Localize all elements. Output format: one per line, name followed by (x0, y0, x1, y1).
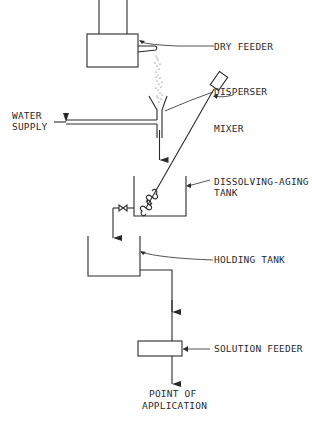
label-point-of-application-2: APPLICATION (142, 400, 207, 411)
water-supply-pipe (54, 120, 157, 124)
label-water-supply-2: SUPPLY (12, 121, 48, 132)
process-diagram (0, 0, 312, 421)
label-mixer: MIXER (214, 123, 244, 134)
label-holding-tank: HOLDING TANK (214, 254, 285, 265)
label-water-supply-1: WATER (12, 110, 42, 121)
label-dissolving-tank-1: DISSOLVING-AGING (214, 176, 309, 187)
label-solution-feeder: SOLUTION FEEDER (214, 343, 303, 354)
label-dry-feeder: DRY FEEDER (214, 41, 273, 52)
tank-outlet-valve (113, 205, 134, 238)
label-point-of-application-1: POINT OF (149, 388, 196, 399)
solution-feeder-box (138, 341, 182, 356)
label-dissolving-tank-2: TANK (214, 187, 238, 198)
label-disperser: DISPERSER (214, 86, 267, 97)
dry-feeder-unit (87, 0, 157, 67)
dissolving-aging-tank (134, 176, 186, 216)
disperser-funnel (149, 96, 167, 138)
holding-tank (88, 236, 140, 276)
powder-stream (154, 55, 162, 102)
holding-tank-outlet (140, 270, 172, 312)
